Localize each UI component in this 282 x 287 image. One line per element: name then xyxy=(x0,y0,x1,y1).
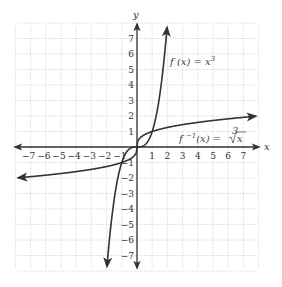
y-tick-label: 3 xyxy=(128,96,134,106)
x-tick-label: −6 xyxy=(37,151,51,161)
y-axis-label: y xyxy=(132,9,139,20)
y-tick-label: −4 xyxy=(121,204,135,214)
svg-text:f −1(x) =: f −1(x) = xyxy=(178,132,221,144)
x-tick-label: −4 xyxy=(68,151,82,161)
x-tick-label: −5 xyxy=(52,151,66,161)
y-tick-label: 2 xyxy=(128,111,134,121)
y-tick-label: −7 xyxy=(121,251,135,261)
x-tick-label: 6 xyxy=(225,151,231,161)
y-tick-label: 7 xyxy=(128,34,134,44)
x-tick-label: 4 xyxy=(195,151,201,161)
y-tick-label: 5 xyxy=(128,65,134,75)
y-tick-label: −6 xyxy=(121,235,135,245)
y-tick-label: 1 xyxy=(128,127,134,137)
x-tick-label: 5 xyxy=(210,151,216,161)
y-tick-label: −3 xyxy=(121,189,135,199)
x-tick-label: 7 xyxy=(241,151,247,161)
svg-text:x: x xyxy=(237,133,243,144)
x-tick-label: 3 xyxy=(180,151,186,161)
x-tick-label: −2 xyxy=(98,151,111,161)
function-graph: x y −7−6−5−4−3−2−11234567 7654321−1−2−3−… xyxy=(0,0,282,287)
cubic-function-label: f (x) = x3 xyxy=(169,55,216,67)
cube-root-function-label: f −1(x) = 3 x xyxy=(178,125,246,144)
x-tick-label: 1 xyxy=(149,151,155,161)
x-tick-label: −7 xyxy=(22,151,36,161)
x-axis-label: x xyxy=(264,141,270,152)
y-tick-label: −2 xyxy=(121,173,134,183)
y-tick-label: −5 xyxy=(121,220,135,230)
y-tick-label: 6 xyxy=(128,49,134,59)
x-tick-label: 2 xyxy=(165,151,171,161)
y-tick-label: 4 xyxy=(128,80,134,90)
x-tick-label: −3 xyxy=(83,151,97,161)
